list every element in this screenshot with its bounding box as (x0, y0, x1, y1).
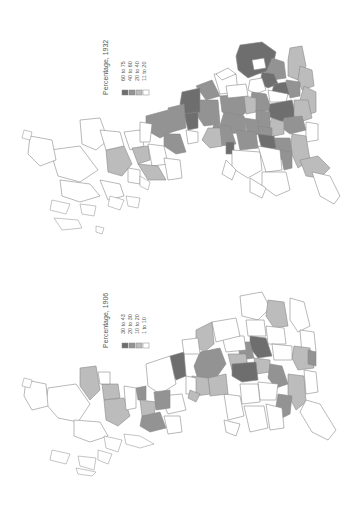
region (50, 146, 98, 182)
map-canvas-1932: Percentage, 1932 60 to 75 40 to 60 20 to… (0, 0, 362, 260)
region (100, 130, 124, 150)
regions-1932 (28, 42, 340, 204)
legend-label: 1 to 10 (141, 317, 147, 334)
region (146, 356, 176, 394)
region (240, 292, 270, 320)
region (272, 344, 292, 360)
region (262, 172, 290, 196)
region (266, 404, 284, 430)
legend-label: 60 to 75 (120, 61, 126, 81)
legend-swatch (129, 343, 135, 348)
island (98, 450, 112, 464)
region (164, 134, 186, 154)
legend-title: Percentage, 1932 (102, 40, 110, 95)
legend-swatch (129, 90, 135, 95)
region (266, 326, 286, 344)
island (96, 226, 104, 234)
region (74, 420, 108, 442)
region (140, 122, 152, 142)
region (300, 400, 336, 440)
region (240, 384, 260, 404)
legend-label: 20 to 40 (134, 61, 140, 81)
region (306, 122, 318, 142)
legend-label: 20 to 30 (127, 314, 133, 334)
region (232, 362, 258, 382)
island (54, 218, 82, 230)
map-canvas-1906: Percentage, 1906 30 to 43 20 to 30 10 to… (0, 260, 362, 527)
region (132, 146, 150, 164)
region (286, 80, 300, 98)
region (304, 370, 318, 394)
legend-swatch (143, 343, 149, 348)
legend-1906: Percentage, 1906 30 to 43 20 to 30 10 to… (102, 293, 149, 348)
region (266, 300, 288, 328)
legend-swatch (136, 90, 142, 95)
region (154, 390, 170, 410)
region (136, 386, 146, 400)
region (164, 416, 182, 434)
legend-label: 40 to 60 (127, 61, 133, 81)
legend-label: 10 to 20 (134, 314, 140, 334)
legend-label: 30 to 43 (120, 314, 126, 334)
region (308, 350, 316, 366)
region (312, 172, 340, 204)
region (202, 128, 222, 148)
region (182, 338, 200, 354)
region (258, 382, 278, 400)
island (80, 204, 96, 216)
region (232, 150, 262, 178)
region (208, 374, 228, 396)
legend-1932: Percentage, 1932 60 to 75 40 to 60 20 to… (102, 40, 149, 95)
region (252, 58, 266, 70)
region (128, 168, 140, 184)
region (226, 84, 248, 98)
region (236, 130, 258, 150)
choropleth-map-1906: Percentage, 1906 30 to 43 20 to 30 10 to… (0, 260, 362, 527)
legend-label: 11 to 20 (141, 62, 147, 81)
region (124, 386, 136, 410)
island (108, 196, 124, 210)
legend-swatch (122, 343, 128, 348)
legend-title: Percentage, 1906 (102, 293, 110, 348)
choropleth-map-1932: Percentage, 1932 60 to 75 40 to 60 20 to… (0, 0, 362, 260)
island (22, 378, 32, 388)
island (78, 456, 96, 470)
island (126, 196, 140, 208)
legend-swatch (122, 90, 128, 95)
legend-swatch (143, 90, 149, 95)
region (164, 158, 182, 180)
regions-1906 (24, 292, 336, 442)
island (104, 436, 122, 452)
region (282, 116, 306, 134)
island (50, 200, 70, 214)
region (98, 372, 110, 384)
region (244, 96, 256, 114)
island (50, 450, 70, 464)
region (102, 384, 120, 400)
region (28, 136, 56, 166)
region (60, 180, 100, 202)
island (124, 434, 154, 448)
legend-swatch (136, 343, 142, 348)
region (224, 420, 240, 436)
region (224, 394, 244, 420)
region (298, 66, 314, 90)
island (22, 130, 32, 140)
region (186, 130, 198, 144)
region (290, 298, 310, 332)
region (244, 406, 268, 432)
region (246, 320, 266, 336)
